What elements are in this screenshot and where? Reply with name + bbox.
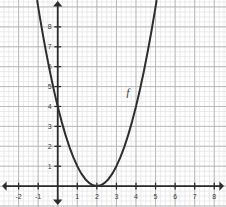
coordinate-plane-chart: -2-112345678 12345678 f [0,0,226,207]
graph-figure: -2-112345678 12345678 f [0,0,226,207]
y-tick-label: 8 [48,23,52,30]
x-tick-label: 1 [75,193,79,200]
x-tick-label: 3 [114,193,118,200]
y-tick-label: 2 [48,143,52,150]
x-tick-label: 6 [173,193,177,200]
x-tick-label: 5 [154,193,158,200]
y-tick-label: 4 [48,103,52,110]
x-tick-label: 8 [212,193,216,200]
x-tick-label: -1 [35,193,41,200]
x-tick-label: 4 [134,193,138,200]
x-tick-label: 2 [95,193,99,200]
y-tick-label: 7 [48,43,52,50]
y-tick-label: 5 [48,83,52,90]
y-tick-label: 1 [48,163,52,170]
x-tick-label: 7 [193,193,197,200]
x-tick-label: -2 [15,193,21,200]
y-tick-label: 3 [48,123,52,130]
